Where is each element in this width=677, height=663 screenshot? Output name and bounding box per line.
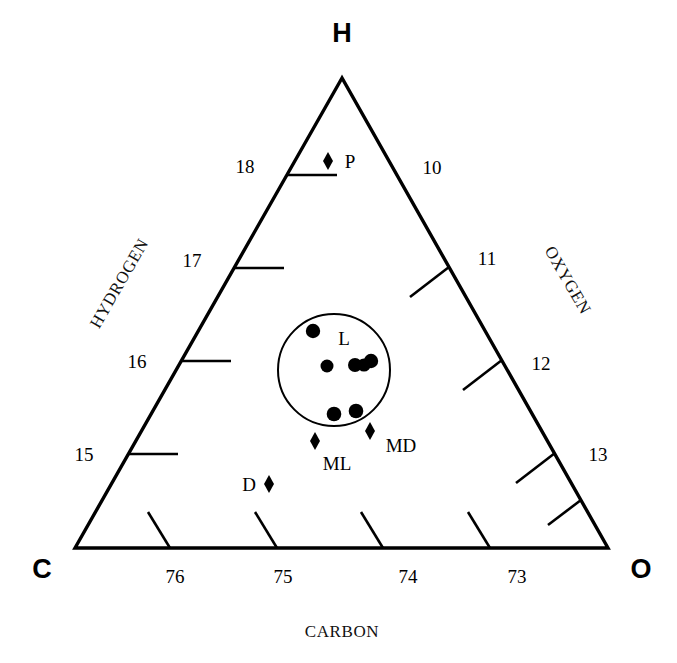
data-point-diamond-d [264,475,274,493]
tick-label-right-12: 12 [532,353,551,374]
tick-label-bottom-75: 75 [274,566,293,587]
data-point-dot [364,354,378,368]
data-point-diamond-md [365,422,375,440]
cluster-label-L: L [338,328,350,349]
data-point-dot [327,407,342,422]
tick-label-bottom-73: 73 [508,566,527,587]
right-axis-ticks [410,267,555,483]
tick-right-11 [463,360,502,390]
axis-name-carbon: CARBON [305,622,379,641]
tick-label-right-13: 13 [589,444,608,465]
axis-name-hydrogen: HYDROGEN [86,235,153,331]
tick-bottom-73 [468,512,490,548]
tick-label-right-11: 11 [478,248,496,269]
bottom-axis-tick-labels: 76 75 74 73 [166,566,527,587]
right-axis-ticks-lower [548,500,581,525]
tick-label-bottom-74: 74 [399,566,419,587]
vertex-label-hydrogen: H [332,18,352,48]
data-point-dot [321,360,334,373]
data-label-ml: ML [323,453,352,474]
data-label-p: P [345,151,356,172]
tick-label-bottom-76: 76 [166,566,185,587]
tick-bottom-74 [361,512,383,548]
vertex-label-carbon: C [32,554,52,584]
data-point-diamond-ml [310,432,320,450]
data-point-diamond-p [323,152,333,170]
data-label-d: D [242,474,256,495]
bottom-axis-ticks [148,512,490,548]
tick-right-13 [548,500,581,525]
triangle-edges [75,78,608,548]
tick-label-left-15: 15 [75,444,94,465]
data-point-dot [306,324,320,338]
tick-bottom-75 [255,512,277,548]
tick-label-right-10: 10 [423,157,442,178]
tick-label-left-17: 17 [183,250,202,271]
data-point-dot [349,404,364,419]
tick-right-10 [410,267,449,297]
tick-bottom-76 [148,512,170,548]
tick-label-left-16: 16 [128,351,147,372]
vertex-label-oxygen: O [630,554,651,584]
triangle-outline [75,78,608,548]
ternary-plot-svg: 15 16 17 18 10 11 12 13 [0,0,677,663]
ternary-diagram: 15 16 17 18 10 11 12 13 [0,0,677,663]
named-sample-markers [264,152,375,493]
axis-name-oxygen: OXYGEN [541,243,595,318]
tick-label-left-18: 18 [236,156,255,177]
left-axis-ticks [128,175,337,454]
tick-right-12 [516,453,555,483]
data-label-md: MD [386,435,417,456]
